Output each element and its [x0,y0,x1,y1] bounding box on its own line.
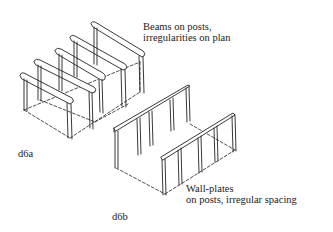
figure-d6b-drawing [114,85,236,195]
caption-d6b-line2: on posts, irregular spacing [186,195,297,206]
caption-d6b-line1: Wall-plates [186,184,297,195]
caption-d6a-line2: irregularities on plan [143,33,230,44]
caption-d6a: Beams on posts, irregularities on plan [143,22,230,43]
caption-d6a-line1: Beams on posts, [143,22,230,33]
figure-label-d6b: d6b [112,211,128,222]
figure-label-d6a: d6a [18,148,33,159]
caption-d6b: Wall-plates on posts, irregular spacing [186,184,297,205]
